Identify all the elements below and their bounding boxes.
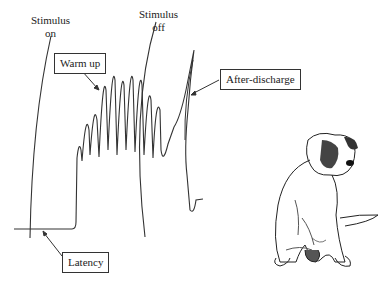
warm-up-callout: Warm up — [54, 53, 106, 74]
stimulus-on-marker — [30, 36, 51, 238]
stimulus-off-label: Stimulus off — [139, 8, 178, 34]
after-discharge-callout: After-discharge — [220, 69, 301, 90]
firing-trace-diagram — [0, 0, 392, 283]
dog-illustration — [275, 133, 378, 266]
latency-callout: Latency — [62, 252, 109, 273]
stimulus-off-marker — [140, 22, 156, 237]
after-discharge-arrow — [191, 80, 219, 95]
response-trace — [14, 50, 203, 229]
stimulus-on-label: Stimulus on — [31, 14, 70, 40]
stimulus-on-label-line2: on — [31, 27, 70, 40]
stimulus-on-label-line1: Stimulus — [31, 14, 70, 27]
latency-arrow — [43, 231, 62, 256]
stimulus-off-label-line1: Stimulus — [139, 8, 178, 21]
stimulus-off-label-line2: off — [139, 21, 178, 34]
